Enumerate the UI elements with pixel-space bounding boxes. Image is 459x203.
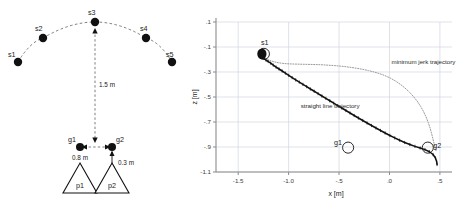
label-vertical-distance: 1.5 m — [99, 81, 115, 88]
arrow-head-up — [92, 28, 97, 34]
y-axis-title: z [m] — [191, 89, 199, 104]
label-s5: s5 — [166, 50, 174, 59]
trajectory-plot-panel: -1.5-1.0-.5.0.5.1-.1-.3-.5-.7-.9-1.1 min… — [190, 0, 459, 203]
axis-layer — [216, 18, 452, 172]
x-tick-label-4: .5 — [437, 177, 443, 184]
g1-circle[interactable] — [343, 142, 354, 153]
figure-root: s1 s2 s3 s4 s5 g1 g2 1.5 m 0.8 m 0.3 m p… — [0, 0, 459, 203]
x-tick-label-3: .0 — [387, 177, 393, 184]
label-goal-person-offset: 0.3 m — [118, 159, 134, 166]
y-tick-label-2: -.3 — [204, 68, 212, 75]
node-s5[interactable] — [168, 58, 176, 66]
arrow-head-down — [92, 137, 97, 143]
x-tick-label-0: -1.5 — [233, 177, 244, 184]
y-tick-label-3: -.5 — [204, 93, 212, 100]
arrow-head-up-g2 — [110, 151, 115, 157]
y-tick-label-4: -.7 — [204, 118, 212, 125]
y-tick-label-1: -.1 — [204, 43, 212, 50]
node-s3[interactable] — [91, 18, 99, 26]
label-goal-separation: 0.8 m — [72, 154, 88, 161]
marker-s1: s1 — [261, 38, 269, 47]
marker-g1: g1 — [334, 138, 342, 147]
node-g2[interactable] — [108, 143, 116, 151]
marker-g2: g2 — [433, 141, 441, 150]
label-s3: s3 — [88, 8, 96, 17]
anno-minimum-jerk: minimum jerk trajectory — [391, 58, 456, 65]
anno-straight-line: straight line trajectory — [301, 102, 361, 109]
x-tick-label-2: -.5 — [335, 177, 343, 184]
goal-nodes-group — [76, 143, 116, 151]
grid-layer — [216, 22, 452, 172]
label-g1: g1 — [68, 135, 76, 144]
label-s1: s1 — [8, 50, 16, 59]
label-p1: p1 — [76, 181, 84, 190]
node-s2[interactable] — [39, 34, 47, 42]
x-axis-title: x [m] — [328, 190, 343, 198]
node-s4[interactable] — [142, 34, 150, 42]
label-s2: s2 — [35, 24, 43, 33]
setup-diagram-panel: s1 s2 s3 s4 s5 g1 g2 1.5 m 0.8 m 0.3 m p… — [0, 0, 190, 203]
node-s1[interactable] — [14, 58, 22, 66]
y-tick-label-5: -.9 — [204, 143, 212, 150]
node-g1[interactable] — [76, 143, 84, 151]
x-tick-label-1: -1.0 — [283, 177, 294, 184]
label-p2: p2 — [108, 181, 116, 190]
annotation-layer: minimum jerk trajectorystraight line tra… — [261, 38, 456, 150]
label-g2: g2 — [116, 135, 124, 144]
y-tick-label-0: .1 — [206, 18, 212, 25]
y-tick-label-6: -1.1 — [200, 168, 211, 175]
setup-diagram-svg: s1 s2 s3 s4 s5 g1 g2 1.5 m 0.8 m 0.3 m p… — [0, 0, 190, 203]
trajectory-plot-svg: -1.5-1.0-.5.0.5.1-.1-.3-.5-.7-.9-1.1 min… — [190, 0, 459, 203]
label-s4: s4 — [140, 24, 148, 33]
